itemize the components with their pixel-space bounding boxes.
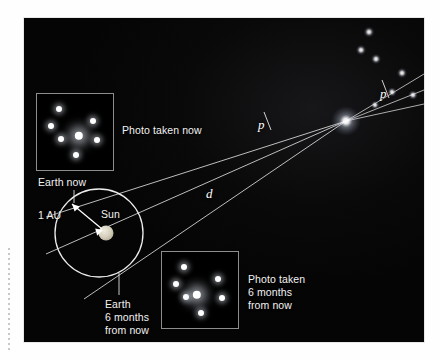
inset-background-star: [94, 137, 100, 143]
photo-taken-now-inset: [36, 93, 114, 171]
figure-page: Photo taken now Photo taken 6 months fro…: [0, 0, 440, 359]
sun-label: Sun: [101, 208, 120, 221]
inset-background-star: [219, 295, 225, 301]
earth-now-label: Earth now: [38, 176, 86, 189]
inset-background-star: [58, 136, 64, 142]
parallax-angle-marker-left: [264, 112, 271, 130]
parallax-p-left-label: p: [258, 117, 265, 133]
inset-background-star: [181, 264, 187, 270]
inset-background-star: [56, 106, 62, 112]
target-star: [331, 106, 361, 136]
inset-target-star: [193, 291, 201, 299]
one-au-label: 1 AU: [38, 209, 61, 222]
inset-background-star: [183, 294, 189, 300]
earth-six-months-label: Earth 6 months from now: [105, 298, 149, 337]
stellar-parallax-figure: Photo taken now Photo taken 6 months fro…: [24, 18, 424, 342]
photo-taken-six-months-label: Photo taken 6 months from now: [248, 273, 305, 312]
one-au-arrow: [72, 204, 103, 236]
photo-taken-now-label: Photo taken now: [122, 124, 202, 137]
inset-background-star: [73, 152, 79, 158]
photo-taken-six-months-inset: [161, 251, 239, 329]
parallax-p-right-label: p: [380, 86, 387, 102]
inset-background-star: [198, 310, 204, 316]
margin-ruled-line: [8, 248, 10, 352]
distance-d-label: d: [206, 186, 213, 202]
inset-background-star: [48, 123, 54, 129]
inset-background-star: [215, 276, 221, 282]
inset-target-star: [75, 132, 83, 140]
inset-background-star: [173, 281, 179, 287]
inset-background-star: [90, 118, 96, 124]
